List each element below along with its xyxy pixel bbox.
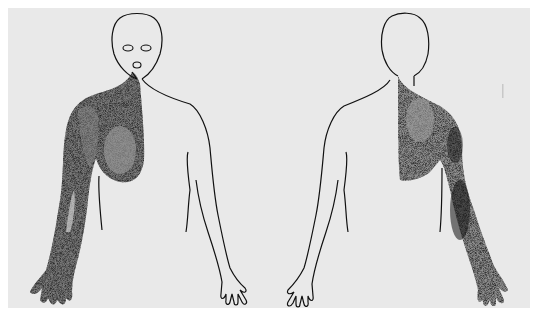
posterior-view	[287, 13, 508, 307]
left-eye-anterior	[123, 45, 133, 51]
mouth-anterior	[133, 62, 141, 68]
scan-artifact	[502, 84, 504, 98]
anterior-view	[30, 14, 247, 306]
shaded-region-posterior	[398, 76, 508, 306]
shaded-region-anterior	[30, 72, 144, 304]
body-diagram	[0, 0, 538, 314]
right-eye-anterior	[141, 45, 151, 51]
